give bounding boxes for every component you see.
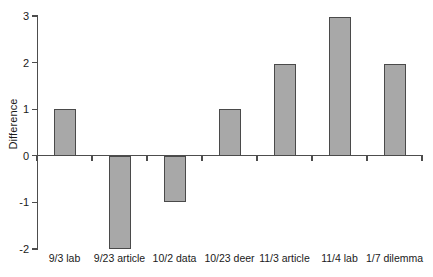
x-tick <box>366 155 367 161</box>
bar <box>109 156 131 249</box>
bar <box>329 17 351 155</box>
x-tick <box>311 155 312 161</box>
bar <box>54 109 76 156</box>
x-tick <box>256 155 257 161</box>
y-tick-label: -1 <box>19 197 29 208</box>
y-tick <box>32 248 38 249</box>
x-tick <box>36 155 37 161</box>
bar <box>219 109 241 156</box>
y-tick-label: 3 <box>23 11 29 22</box>
x-tick <box>91 155 92 161</box>
x-tick <box>146 155 147 161</box>
y-tick <box>32 15 38 16</box>
y-tick <box>32 62 38 63</box>
y-tick-label: 1 <box>23 104 29 115</box>
bar <box>164 156 186 203</box>
y-axis-spine <box>37 16 38 249</box>
bar-chart: Difference 3210-1-2 9/3 lab9/23 article1… <box>0 0 433 277</box>
plot-area: 3210-1-2 <box>37 16 422 249</box>
bar <box>384 64 406 156</box>
y-tick-label: 0 <box>23 150 29 161</box>
bar <box>274 64 296 156</box>
y-axis-label: Difference <box>7 84 19 164</box>
y-tick-label: 2 <box>23 57 29 68</box>
x-axis-category-label: 1/7 dilemma <box>340 253 433 264</box>
x-tick <box>201 155 202 161</box>
y-tick <box>32 202 38 203</box>
y-tick <box>32 109 38 110</box>
x-tick <box>421 155 422 161</box>
